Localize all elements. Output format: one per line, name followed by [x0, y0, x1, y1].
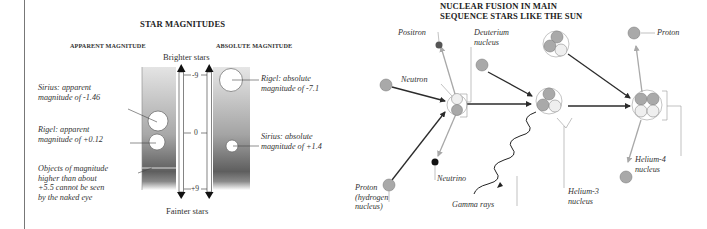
proton-label: Proton — [657, 28, 679, 38]
sirius-apparent-label: Sirius: apparentmagnitude of -1.46 — [38, 83, 100, 102]
tick-0: 0 — [194, 128, 198, 137]
apparent-magnitude-column — [142, 67, 176, 190]
proton-hydrogen-label: Proton(hydrogennucleus) — [355, 183, 388, 212]
nuclear-fusion-title: NUCLEAR FUSION IN MAINSEQUENCE STARS LIK… — [440, 2, 582, 21]
gamma-rays-label: Gamma rays — [452, 200, 494, 210]
fusion-particles — [380, 27, 662, 191]
neutrino — [432, 159, 439, 166]
positron-label: Positron — [398, 28, 426, 38]
proton-out-2 — [620, 171, 632, 183]
helium-4-nucleus — [632, 90, 662, 120]
neutron-label: Neutron — [401, 75, 428, 85]
positron — [436, 42, 443, 49]
absolute-magnitude-column — [213, 67, 250, 190]
naked-eye-label: Objects of magnitudehigher than about+5.… — [38, 164, 108, 202]
helium-3-label: Helium-3nucleus — [568, 187, 599, 206]
rigel-apparent-star — [149, 134, 165, 150]
tick-minus-9: -9 — [192, 71, 198, 80]
rigel-absolute-label: Rigel: absolutemagnitude of -7.1 — [261, 74, 319, 93]
sirius-apparent-star — [148, 111, 168, 131]
gamma-ray-arrowhead — [497, 182, 503, 188]
deuterium-label: Deuteriumnucleus — [474, 28, 509, 47]
neutrino-label: Neutrino — [437, 174, 466, 184]
tick-plus-9: +9 — [191, 184, 199, 193]
helium-4-label: Helium-4nucleus — [635, 155, 666, 174]
fusion-dark-arrows — [392, 54, 630, 180]
proton-in-1 — [380, 79, 392, 91]
sirius-absolute-label: Sirius: absolutemagnitude of +1.4 — [261, 132, 322, 151]
gamma-ray-wave — [474, 112, 536, 194]
proton-out — [628, 27, 640, 39]
proton-in-2 — [476, 59, 488, 71]
rigel-apparent-label: Rigel: apparentmagnitude of +0.12 — [38, 125, 103, 144]
